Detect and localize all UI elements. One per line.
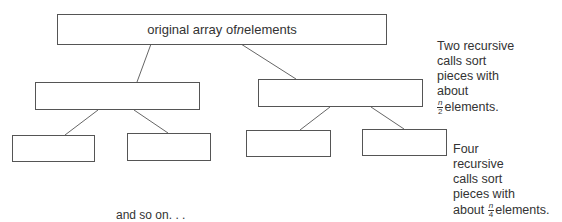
edge-left-right: [134, 110, 168, 133]
level2-box-1: [12, 135, 95, 162]
note-line: calls sort: [453, 172, 549, 187]
level2-box-3: [246, 130, 331, 157]
note-line-fraction: about n4elements.: [453, 202, 549, 219]
level1-note: Two recursive calls sort pieces with abo…: [437, 39, 514, 116]
root-label-pre: original array of: [147, 22, 237, 37]
edge-left-left: [65, 110, 98, 135]
edge-right-left: [300, 107, 330, 130]
level2-box-4: [362, 129, 447, 156]
note-line: Four: [453, 142, 549, 157]
note-line: calls sort: [437, 54, 514, 69]
level2-box-2: [127, 133, 211, 161]
note-line-fraction: n2elements.: [437, 99, 514, 116]
level1-left-box: [35, 82, 200, 110]
continuation-text: and so on. . .: [116, 208, 185, 222]
note-line: pieces with: [453, 187, 549, 202]
root-array-box: original array of n elements: [57, 14, 387, 45]
root-label-var: n: [237, 22, 244, 37]
edge-root-left: [137, 44, 151, 82]
edge-right-right: [371, 107, 404, 129]
fraction-n-over-4: n4: [488, 202, 494, 219]
note-line: pieces with: [437, 69, 514, 84]
fraction-n-over-2: n2: [437, 99, 443, 116]
note-line: about: [437, 84, 514, 99]
root-label-post: elements: [244, 22, 297, 37]
note-line: Two recursive: [437, 39, 514, 54]
note-line: recursive: [453, 157, 549, 172]
level2-note: Four recursive calls sort pieces with ab…: [453, 142, 549, 219]
level1-right-box: [258, 79, 423, 107]
edge-root-right: [241, 44, 296, 79]
